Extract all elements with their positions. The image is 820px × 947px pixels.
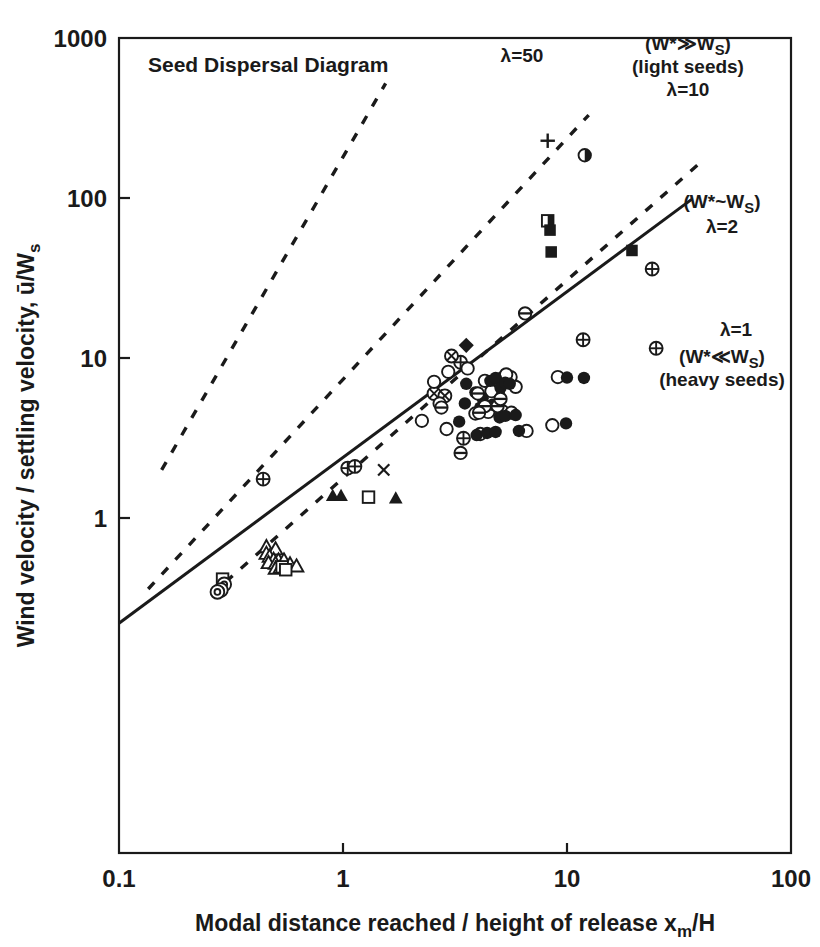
annotation-lambda-1: λ=1 xyxy=(720,319,753,340)
marker-open-square xyxy=(280,564,292,576)
marker-half-circle xyxy=(579,149,591,161)
marker-circle-hline xyxy=(472,387,484,399)
y-tick-label: 1 xyxy=(94,505,107,532)
annotation-light-seeds: (light seeds) xyxy=(632,56,744,77)
marker-filled-circle xyxy=(453,415,465,427)
marker-circle-plus xyxy=(457,432,470,445)
marker-filled-diamond xyxy=(459,338,474,353)
plot-title: Seed Dispersal Diagram xyxy=(148,53,388,76)
series-half-filled-circle xyxy=(579,149,591,161)
marker-filled-circle xyxy=(459,397,471,409)
annotation-w-similar: (W*~WS) xyxy=(684,191,761,216)
x-tick-label: 0.1 xyxy=(102,865,135,892)
marker-filled-circle xyxy=(489,426,501,438)
marker-plus xyxy=(540,134,554,148)
marker-x xyxy=(378,464,389,475)
marker-open-circle xyxy=(442,366,454,378)
x-tick-label: 100 xyxy=(771,865,811,892)
marker-open-circle xyxy=(428,376,440,388)
annotation-heavy-seeds: (heavy seeds) xyxy=(659,369,785,390)
plot-border xyxy=(119,38,791,853)
x-tick-label: 10 xyxy=(554,865,581,892)
marker-open-circle xyxy=(440,423,452,435)
annotations: λ=50(W*≫WS)(light seeds)λ=10(W*~WS)λ=2λ=… xyxy=(148,33,785,390)
y-tick-label: 10 xyxy=(80,345,107,372)
marker-filled-circle xyxy=(560,417,572,429)
annotation-w-much-less: (W*≪WS) xyxy=(679,346,765,371)
annotation-lambda-50: λ=50 xyxy=(501,45,544,66)
marker-filled-square xyxy=(544,224,556,236)
marker-circle-plus xyxy=(577,333,590,346)
plot-frame xyxy=(119,38,791,853)
marker-circle-dot xyxy=(211,585,225,599)
series-filled-circle xyxy=(453,371,590,441)
marker-filled-triangle xyxy=(334,489,348,501)
marker-open-circle xyxy=(416,415,428,427)
x-tick-label: 1 xyxy=(336,865,349,892)
series-plus xyxy=(540,134,554,148)
series-circle-dot xyxy=(211,577,232,598)
seed-dispersal-scatter-plot: λ=50(W*≫WS)(light seeds)λ=10(W*~WS)λ=2λ=… xyxy=(0,0,820,947)
marker-open-circle xyxy=(461,362,473,374)
marker-circle-hline xyxy=(494,393,506,405)
annotation-lambda-10: λ=10 xyxy=(667,79,710,100)
marker-filled-triangle xyxy=(389,491,403,503)
marker-circle-hline xyxy=(435,401,447,413)
marker-filled-circle xyxy=(504,378,516,390)
marker-circle-hline xyxy=(473,407,485,419)
series-filled-square xyxy=(544,224,637,257)
y-axis-title: Wind velocity / settling velocity, ū/Ws xyxy=(13,244,44,648)
reference-line-lambda-1 xyxy=(119,199,692,623)
reference-lines xyxy=(119,83,702,623)
marker-circle-hline xyxy=(519,307,531,319)
series-filled-diamond xyxy=(459,338,474,353)
marker-open-circle xyxy=(546,419,558,431)
annotation-lambda-2: λ=2 xyxy=(706,216,738,237)
marker-circle-x xyxy=(445,349,458,362)
marker-open-square xyxy=(363,491,375,503)
marker-filled-square xyxy=(626,245,638,257)
marker-filled-circle xyxy=(513,425,525,437)
figure-canvas: λ=50(W*≫WS)(light seeds)λ=10(W*~WS)λ=2λ=… xyxy=(0,0,820,947)
y-tick-label: 100 xyxy=(67,185,107,212)
marker-circle-plus xyxy=(257,473,270,486)
y-tick-label: 1000 xyxy=(54,25,107,52)
marker-circle-hline xyxy=(454,447,466,459)
data-points xyxy=(211,134,663,599)
x-axis-title: Modal distance reached / height of relea… xyxy=(195,910,715,941)
marker-filled-circle xyxy=(509,409,521,421)
marker-filled-square xyxy=(545,246,557,258)
axis-labels: 0.11101001101001000Modal distance reache… xyxy=(13,25,811,941)
marker-circle-plus xyxy=(650,342,663,355)
reference-line-lambda-50 xyxy=(162,83,386,469)
marker-circle-plus xyxy=(348,460,361,473)
marker-filled-circle xyxy=(460,378,472,390)
marker-filled-circle xyxy=(578,372,590,384)
series-x-cross xyxy=(378,464,389,475)
marker-circle-plus xyxy=(646,263,659,276)
annotation-w-much-greater: (W*≫WS) xyxy=(645,33,731,58)
marker-filled-circle xyxy=(470,429,482,441)
marker-filled-circle xyxy=(561,371,573,383)
reference-line-lambda-10 xyxy=(148,115,589,589)
